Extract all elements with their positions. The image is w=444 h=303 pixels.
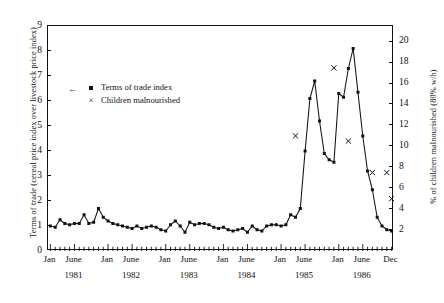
legend-label-children-malnourished: Children malnourished — [101, 94, 180, 107]
legend-label-terms-of-trade: Terms of trade index — [101, 81, 172, 94]
data-point — [150, 225, 153, 228]
y-axis-left-tick-label: 0 — [22, 244, 42, 255]
y-axis-left-tick-label: 6 — [22, 94, 42, 105]
data-point — [270, 223, 273, 226]
data-point — [294, 216, 297, 219]
data-point — [318, 120, 321, 123]
square-marker-icon — [84, 81, 98, 94]
plot-area — [47, 25, 393, 250]
x-axis-year-label: 1985 — [284, 270, 324, 280]
data-point — [155, 226, 158, 229]
data-point — [347, 67, 350, 70]
data-point — [188, 221, 191, 224]
legend-pointer-icon: ← — [68, 83, 77, 96]
data-point — [59, 218, 62, 221]
cross-data-point — [331, 65, 336, 70]
x-axis-year-label: 1982 — [111, 270, 151, 280]
y-axis-right-tick-label: 2 — [399, 223, 421, 234]
data-point — [256, 228, 259, 231]
data-point — [390, 230, 393, 233]
y-axis-left-tick-label: 2 — [22, 194, 42, 205]
data-point — [78, 222, 81, 225]
data-point — [131, 227, 134, 230]
legend-item-terms-of-trade: Terms of trade index — [84, 81, 180, 94]
data-point — [169, 223, 172, 226]
x-axis-month-label: Dec — [371, 254, 411, 264]
cross-data-point — [389, 196, 394, 201]
data-point — [385, 228, 388, 231]
data-point — [323, 152, 326, 155]
data-point — [222, 226, 225, 229]
data-point — [68, 223, 71, 226]
x-axis-year-label: 1983 — [169, 270, 209, 280]
data-point — [126, 226, 129, 229]
y-axis-left-tick-label: 1 — [22, 219, 42, 230]
data-point — [198, 222, 201, 225]
y-axis-left-tick-label: 4 — [22, 144, 42, 155]
data-point — [380, 225, 383, 228]
data-point — [63, 222, 66, 225]
data-point — [145, 226, 148, 229]
data-point — [212, 226, 215, 229]
cross-marker-icon: × — [84, 94, 98, 107]
data-point — [49, 225, 52, 228]
data-point — [241, 227, 244, 230]
data-point — [275, 223, 278, 226]
y-axis-right-tick-label: 16 — [399, 76, 421, 87]
data-point — [280, 225, 283, 228]
x-axis-year-label: 1984 — [226, 270, 266, 280]
data-point — [54, 226, 57, 229]
y-axis-left-tick-label: 8 — [22, 44, 42, 55]
data-point — [366, 170, 369, 173]
data-point — [371, 188, 374, 191]
y-axis-right-label: % of children malnourished (80% w/h) — [429, 22, 438, 252]
data-point — [107, 220, 110, 223]
data-point — [361, 135, 364, 138]
legend-item-children-malnourished: × Children malnourished — [84, 94, 180, 107]
data-point — [299, 207, 302, 210]
y-axis-right-tick-label: 18 — [399, 55, 421, 66]
data-point — [352, 47, 355, 50]
cross-data-point — [346, 139, 351, 144]
data-point — [227, 228, 230, 231]
data-point — [328, 158, 331, 161]
data-point — [284, 223, 287, 226]
data-point — [207, 223, 210, 226]
chart-figure: Terms of trade (cereal price index over … — [0, 0, 444, 303]
data-point — [174, 220, 177, 223]
data-point — [236, 228, 239, 231]
y-axis-right-tick-label: 4 — [399, 202, 421, 213]
data-point — [121, 225, 124, 228]
y-axis-right-tick-label: 8 — [399, 160, 421, 171]
data-point — [246, 231, 249, 234]
data-point — [260, 230, 263, 233]
data-point — [193, 223, 196, 226]
y-axis-left-tick-label: 5 — [22, 119, 42, 130]
y-axis-left-tick-label: 7 — [22, 69, 42, 80]
data-point — [116, 223, 119, 226]
data-point — [111, 222, 114, 225]
data-point — [232, 230, 235, 233]
series-canvas — [48, 26, 394, 251]
data-point — [203, 222, 206, 225]
data-point — [183, 231, 186, 234]
cross-data-point — [384, 170, 389, 175]
x-axis-year-label: 1981 — [53, 270, 93, 280]
data-point — [140, 227, 143, 230]
terms-of-trade-line — [50, 49, 391, 233]
data-point — [304, 150, 307, 153]
data-point — [356, 91, 359, 94]
data-point — [217, 227, 220, 230]
cross-data-point — [293, 133, 298, 138]
data-point — [376, 216, 379, 219]
y-axis-left-tick-label: 9 — [22, 19, 42, 30]
legend: ← Terms of trade index × Children malnou… — [84, 81, 180, 106]
data-point — [92, 221, 95, 224]
data-point — [289, 213, 292, 216]
y-axis-left-tick-label: 3 — [22, 169, 42, 180]
y-axis-right-tick-label: 10 — [399, 139, 421, 150]
data-point — [83, 213, 86, 216]
data-point — [73, 222, 76, 225]
y-axis-right-tick-label: 12 — [399, 118, 421, 129]
data-point — [102, 216, 105, 219]
